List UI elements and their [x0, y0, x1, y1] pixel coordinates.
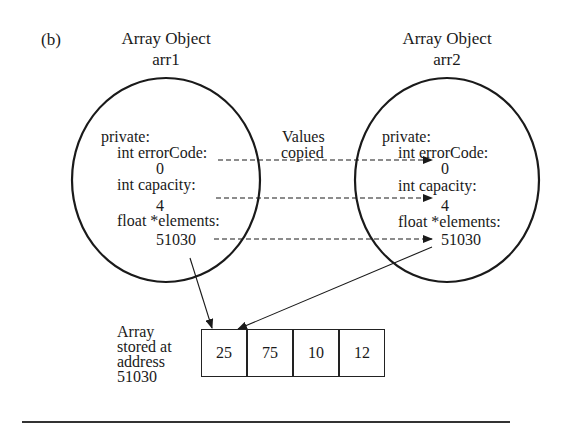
pointer-arrow-arr2	[238, 247, 432, 329]
left-value-elements: 51030	[156, 231, 196, 248]
right-field-errorcode: int errorCode:	[398, 144, 488, 161]
left-private-label: private:	[101, 128, 150, 145]
right-field-capacity: int capacity:	[398, 177, 477, 194]
left-field-capacity: int capacity:	[117, 176, 196, 193]
array-cell-0: 25	[201, 329, 247, 377]
left-field-elements: float *elements:	[117, 212, 220, 229]
array-label-line1: Array	[117, 324, 154, 339]
array-label-line3: address	[117, 354, 165, 369]
array-cell-2: 10	[293, 329, 339, 377]
copy-annotation-line2: copied	[281, 144, 324, 161]
array-cell-3: 12	[339, 329, 385, 377]
left-field-errorcode: int errorCode:	[117, 144, 207, 161]
right-value-elements: 51030	[441, 231, 481, 248]
left-value-errorcode: 0	[156, 160, 164, 177]
bottom-rule	[22, 421, 510, 423]
array-label-line2: stored at	[117, 339, 172, 354]
right-value-errorcode: 0	[441, 160, 449, 177]
right-private-label: private:	[382, 128, 431, 145]
right-field-elements: float *elements:	[398, 213, 501, 230]
right-value-capacity: 4	[441, 197, 449, 214]
array-cell-1: 75	[247, 329, 293, 377]
array-label-line4: 51030	[117, 369, 157, 384]
copy-annotation-line1: Values	[282, 128, 325, 145]
pointer-arrow-arr1	[190, 258, 212, 328]
